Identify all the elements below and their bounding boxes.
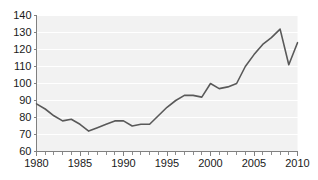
y-axis-tick-label: 100 [13,77,31,89]
x-axis-tick-labels: 1980198519901995200020052010 [24,157,309,169]
y-axis-tick-label: 130 [13,26,31,38]
y-axis-tick-labels: 60708090100110120130140 [13,9,31,157]
y-axis-tick-label: 120 [13,43,31,55]
y-axis-tick-label: 110 [14,60,32,72]
chart-canvas: 60708090100110120130140 1980198519901995… [0,0,318,180]
x-axis-tick-label: 1990 [111,157,135,169]
y-axis [34,15,37,152]
y-axis-tick-label: 60 [19,145,31,157]
x-axis-tick-label: 2010 [285,157,309,169]
y-axis-tick-label: 80 [19,111,31,123]
y-axis-tick-label: 140 [13,9,31,21]
y-axis-tick-label: 70 [19,128,31,140]
x-axis-tick-label: 1985 [68,157,92,169]
x-axis-tick-label: 1980 [24,157,48,169]
x-axis [37,152,298,156]
y-axis-tick-label: 90 [19,94,31,106]
x-axis-tick-label: 1995 [155,157,179,169]
line-chart: 60708090100110120130140 1980198519901995… [0,0,318,180]
x-axis-tick-label: 2000 [198,157,222,169]
x-axis-tick-label: 2005 [242,157,266,169]
